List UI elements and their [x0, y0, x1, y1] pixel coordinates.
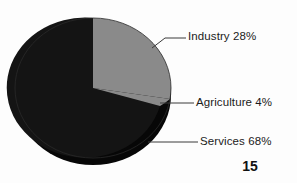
leader-line-industry: [152, 38, 186, 48]
figure-page: Industry 28% Agriculture 4% Services 68%…: [0, 0, 297, 183]
pie-label-agriculture: Agriculture 4%: [196, 96, 272, 108]
pie-label-services: Services 68%: [200, 135, 272, 147]
pie-label-industry: Industry 28%: [188, 30, 256, 42]
pie-slice-industry: [93, 18, 171, 99]
pie-chart-svg: [0, 0, 200, 183]
pie-chart-figure: [0, 0, 200, 183]
page-number: 15: [232, 158, 268, 174]
